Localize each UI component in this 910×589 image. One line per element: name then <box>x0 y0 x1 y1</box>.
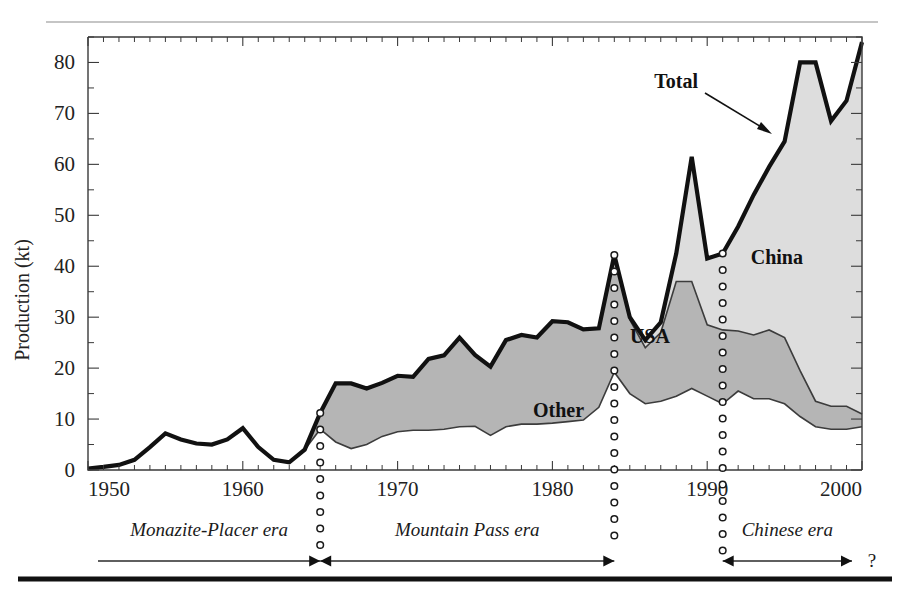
y-axis-tick-labels: 01020304050607080 <box>54 50 75 482</box>
era-guide-dot <box>611 301 618 308</box>
era-guide-dot <box>317 525 324 532</box>
era-guide-dot <box>611 351 618 358</box>
era-guide-dot <box>719 498 726 505</box>
era-guide-dot <box>317 476 324 483</box>
era-guide-dot <box>611 252 618 259</box>
era-guide-dot <box>719 465 726 472</box>
era-label: Monazite-Placer era <box>129 519 288 540</box>
x-tick-label: 2000 <box>820 477 862 501</box>
era-guide-dot <box>719 333 726 340</box>
other-region-label: Other <box>533 399 584 421</box>
total-callout-label: Total <box>654 70 698 92</box>
era-guide-dot <box>317 542 324 549</box>
era-guide-dot <box>611 367 618 374</box>
era-guide-dot <box>317 443 324 450</box>
era-guide-dot <box>719 366 726 373</box>
era-annotation-bars: Monazite-Placer eraMountain Pass eraChin… <box>98 519 852 567</box>
y-tick-label: 60 <box>54 152 75 176</box>
era-guide-dot <box>719 448 726 455</box>
era-guide-dot <box>611 334 618 341</box>
era-label: Mountain Pass era <box>394 519 540 540</box>
era-guide-dot <box>611 433 618 440</box>
era-guide-dot <box>719 415 726 422</box>
y-tick-label: 40 <box>54 254 75 278</box>
era-guide-dot <box>317 459 324 466</box>
era-guide-dot <box>611 318 618 325</box>
era-guide-dot <box>317 410 324 417</box>
y-tick-label: 0 <box>65 458 76 482</box>
y-axis-title: Production (kt) <box>11 239 34 361</box>
era-arrowhead <box>320 556 331 567</box>
era-guide-dot <box>317 426 324 433</box>
y-tick-label: 80 <box>54 50 75 74</box>
y-tick-label: 20 <box>54 356 75 380</box>
era-guide-dot <box>719 349 726 356</box>
era-guide-dot <box>719 514 726 521</box>
era-guide-dot <box>719 267 726 274</box>
era-guide-dot <box>719 300 726 307</box>
era-guide-dot <box>611 499 618 506</box>
era-arrowhead <box>309 556 320 567</box>
x-axis-tick-labels: 195019601970198019902000 <box>88 477 862 501</box>
era-guide-dot <box>611 450 618 457</box>
era-label: Chinese era <box>742 519 833 540</box>
era-guide-dot <box>719 316 726 323</box>
era-guide-dot <box>611 532 618 539</box>
era-question-mark: ? <box>868 550 876 571</box>
era-guide-dot <box>611 285 618 292</box>
era-arrowhead <box>603 556 614 567</box>
era-guide-dot <box>611 384 618 391</box>
era-guide-dot <box>611 466 618 473</box>
era-guide-dot <box>719 399 726 406</box>
y-tick-label: 10 <box>54 407 75 431</box>
era-guide-dot <box>611 417 618 424</box>
x-tick-label: 1970 <box>377 477 419 501</box>
era-guide-dot <box>611 400 618 407</box>
era-guide-dot <box>719 547 726 554</box>
y-tick-label: 70 <box>54 101 75 125</box>
x-tick-label: 1980 <box>531 477 573 501</box>
x-tick-label: 1960 <box>222 477 264 501</box>
era-guide-dot <box>719 250 726 257</box>
era-guide-dot <box>719 531 726 538</box>
era-arrowhead <box>723 556 734 567</box>
era-guide-dot <box>611 268 618 275</box>
rare-earth-production-chart: 195019601970198019902000 010203040506070… <box>0 0 910 589</box>
total-callout-arrow <box>705 93 772 134</box>
era-guide-dot <box>719 283 726 290</box>
era-guide-dot <box>317 509 324 516</box>
x-tick-label: 1950 <box>88 477 130 501</box>
china-region-label: China <box>751 246 803 268</box>
era-guide-dot <box>611 483 618 490</box>
figure-container: 195019601970198019902000 010203040506070… <box>0 0 910 589</box>
era-guide-dot <box>317 492 324 499</box>
usa-region-label: USA <box>630 325 671 347</box>
y-tick-label: 30 <box>54 305 75 329</box>
era-guide-dot <box>719 432 726 439</box>
era-guide-dot <box>719 481 726 488</box>
era-guide-dot <box>719 382 726 389</box>
stacked-area-fills <box>88 42 862 470</box>
y-tick-label: 50 <box>54 203 75 227</box>
era-guide-dot <box>611 516 618 523</box>
era-arrowhead <box>841 556 852 567</box>
